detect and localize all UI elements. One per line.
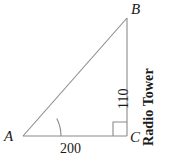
vertex-label-c: C <box>130 130 140 145</box>
angle-arc-at-a <box>57 119 61 137</box>
right-angle-marker <box>113 122 127 136</box>
radio-tower-diagram: A B C 200 110 Radio Tower <box>0 0 178 163</box>
radio-tower-caption: Radio Tower <box>142 68 156 146</box>
vertex-label-a: A <box>4 129 13 144</box>
base-length-label: 200 <box>60 142 81 156</box>
hypotenuse-line <box>23 18 127 136</box>
tower-height-label: 110 <box>117 89 131 109</box>
vertex-label-b: B <box>131 2 140 17</box>
